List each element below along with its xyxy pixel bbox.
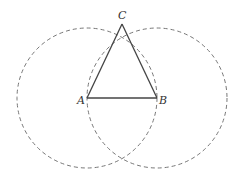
equilateral-triangle-construction: A B C — [0, 0, 243, 179]
label-c: C — [118, 9, 127, 22]
label-a: A — [76, 94, 85, 107]
segment-bc — [122, 24, 157, 98]
segment-ac — [87, 24, 122, 98]
label-b: B — [158, 94, 167, 107]
